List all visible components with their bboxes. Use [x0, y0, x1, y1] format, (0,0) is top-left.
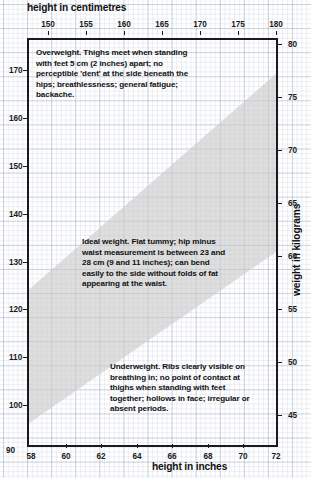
bottom-tick-68: 68: [203, 452, 212, 461]
top-tick-175: 175: [231, 20, 245, 29]
left-tick-130: 130: [9, 258, 23, 267]
right-tick-75: 75: [288, 93, 297, 102]
annotation-ideal-weight: Ideal weight. Flat tummy; hip minus wais…: [82, 237, 230, 290]
bottom-axis-title: height in inches: [152, 461, 227, 472]
top-tick-155: 155: [79, 20, 93, 29]
annotation-underweight: Underweight. Ribs clearly visible on bre…: [110, 362, 256, 415]
left-tick-110: 110: [9, 353, 22, 362]
right-tickmark-75: [278, 97, 282, 98]
bottom-tick-64: 64: [132, 452, 141, 461]
bottom-tick-70: 70: [238, 452, 247, 461]
left-tick-170: 170: [9, 66, 23, 75]
bottom-tick-60: 60: [61, 452, 70, 461]
top-tick-165: 165: [155, 20, 169, 29]
right-tick-55: 55: [288, 305, 297, 314]
bottom-tick-72: 72: [271, 452, 280, 461]
top-tick-150: 150: [41, 20, 55, 29]
top-tickmark-170: [200, 31, 201, 35]
left-tick-150: 150: [9, 162, 23, 171]
bottom-tick-58: 58: [26, 452, 35, 461]
right-tick-70: 70: [288, 146, 297, 155]
right-tickmark-65: [278, 203, 282, 204]
right-tick-50: 50: [288, 358, 297, 367]
right-tick-65: 65: [288, 199, 297, 208]
chart-page: height in centimetres height in inches w…: [0, 0, 311, 478]
right-tickmark-55: [278, 309, 282, 310]
left-tick-160: 160: [9, 114, 23, 123]
right-tickmark-50: [278, 362, 282, 363]
top-tick-170: 170: [193, 20, 207, 29]
top-tickmark-160: [124, 31, 125, 35]
left-tick-120: 120: [9, 305, 23, 314]
right-axis-title: weight in kilograms: [291, 204, 302, 296]
top-tickmark-165: [162, 31, 163, 35]
top-tickmark-150: [48, 31, 49, 35]
annotation-overweight: Overweight. Thighs meet when standing wi…: [36, 48, 196, 101]
bottom-tick-62: 62: [96, 452, 105, 461]
top-tick-180: 180: [269, 20, 283, 29]
right-tickmark-60: [278, 256, 282, 257]
top-tickmark-175: [238, 31, 239, 35]
left-tick-100: 100: [9, 401, 23, 410]
top-tick-160: 160: [117, 20, 131, 29]
right-tick-60: 60: [288, 252, 297, 261]
top-axis-title: height in centimetres: [27, 2, 126, 13]
top-tickmark-180: [276, 31, 277, 35]
top-tickmark-155: [86, 31, 87, 35]
right-tickmark-80: [278, 44, 282, 45]
left-tick-90: 90: [6, 446, 15, 455]
right-tick-45: 45: [288, 411, 297, 420]
bottom-tick-66: 66: [167, 452, 176, 461]
right-tickmark-70: [278, 150, 282, 151]
left-tick-140: 140: [9, 210, 23, 219]
right-tickmark-45: [278, 415, 282, 416]
right-tick-80: 80: [288, 40, 297, 49]
